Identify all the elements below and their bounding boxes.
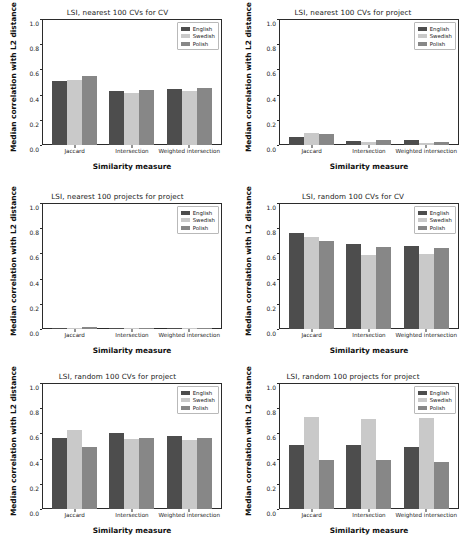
x-tick-mark (74, 329, 75, 332)
x-tick-label: Weighted intersection (396, 148, 457, 154)
bar-english (109, 328, 124, 329)
plot-area: 1.00.80.60.40.20.0JaccardIntersectionWei… (279, 19, 459, 145)
bar-polish (434, 248, 449, 329)
y-tick-label: 0.6 (29, 254, 42, 261)
legend-item: English (418, 390, 452, 396)
bar-group (109, 383, 154, 509)
chart-title: LSI, random 100 CVs for CV (235, 192, 471, 201)
bar-english (289, 137, 304, 145)
bar-swedish (67, 430, 82, 509)
figure-grid: LSI, nearest 100 CVs for CVMedian correl… (0, 0, 471, 546)
y-tick-label: 0.8 (29, 229, 42, 236)
legend-swatch-english (181, 211, 190, 215)
legend-label: Polish (430, 41, 446, 47)
x-tick-mark (369, 145, 370, 148)
legend-swatch-swedish (181, 34, 190, 38)
bar-english (167, 436, 182, 509)
bar-swedish (361, 419, 376, 509)
bar-english (167, 328, 182, 329)
bar-polish (376, 460, 391, 509)
legend-item: Swedish (181, 33, 215, 39)
x-tick-label: Intersection (115, 148, 148, 154)
x-tick-label: Jaccard (64, 148, 84, 154)
legend-swatch-english (181, 391, 190, 395)
legend-swatch-polish (418, 226, 427, 230)
x-tick-mark (132, 509, 133, 512)
bar-swedish (124, 93, 139, 145)
legend-swatch-polish (418, 406, 427, 410)
y-axis-label: Median correlation with L2 distance (9, 2, 18, 152)
x-tick-mark (311, 509, 312, 512)
legend-label: English (430, 210, 449, 216)
chart-panel: LSI, nearest 100 CVs for CVMedian correl… (0, 0, 235, 184)
legend-label: Swedish (193, 397, 215, 403)
x-tick-label: Jaccard (301, 332, 321, 338)
bar-polish (139, 328, 154, 329)
bar-swedish (304, 417, 319, 509)
x-tick-mark (74, 509, 75, 512)
legend-swatch-polish (418, 42, 427, 46)
bar-swedish (304, 133, 319, 145)
legend-label: Swedish (430, 217, 452, 223)
bar-english (109, 91, 124, 145)
x-tick-mark (74, 145, 75, 148)
bar-group (289, 383, 334, 509)
bar-polish (197, 438, 212, 509)
legend-label: English (193, 26, 212, 32)
y-tick-label: 0.6 (266, 254, 279, 261)
legend-item: English (181, 390, 215, 396)
bar-polish (434, 462, 449, 509)
legend: EnglishSwedishPolish (414, 206, 456, 234)
legend-label: Polish (193, 405, 209, 411)
x-tick-mark (426, 145, 427, 148)
plot-area: 1.00.80.60.40.20.0JaccardIntersectionWei… (42, 203, 222, 329)
bar-english (52, 438, 67, 509)
bar-english (404, 246, 419, 329)
y-tick-label: 0.0 (266, 146, 279, 153)
legend-item: Swedish (181, 217, 215, 223)
y-tick-label: 1.0 (266, 384, 279, 391)
x-axis-label: Similarity measure (279, 526, 459, 535)
legend-label: Swedish (430, 397, 452, 403)
legend-item: English (181, 26, 215, 32)
y-tick-label: 0.2 (29, 484, 42, 491)
bar-english (346, 141, 361, 145)
legend-item: Polish (418, 225, 452, 231)
x-tick-mark (426, 329, 427, 332)
y-tick-mark (40, 145, 43, 146)
y-tick-label: 0.6 (266, 70, 279, 77)
legend-label: English (193, 210, 212, 216)
x-tick-label: Intersection (352, 512, 385, 518)
y-tick-label: 0.8 (29, 45, 42, 52)
y-tick-label: 0.0 (266, 330, 279, 337)
x-tick-label: Weighted intersection (159, 512, 220, 518)
legend-label: English (193, 390, 212, 396)
x-tick-label: Weighted intersection (396, 332, 457, 338)
y-tick-mark (277, 509, 280, 510)
y-axis-label: Median correlation with L2 distance (244, 2, 253, 152)
y-tick-label: 1.0 (29, 20, 42, 27)
bar-group (109, 19, 154, 145)
bar-polish (319, 460, 334, 509)
legend-label: Polish (193, 41, 209, 47)
bar-group (346, 383, 391, 509)
legend-label: Polish (193, 225, 209, 231)
x-tick-mark (311, 329, 312, 332)
y-tick-label: 0.4 (29, 459, 42, 466)
x-tick-mark (132, 329, 133, 332)
x-tick-label: Weighted intersection (159, 332, 220, 338)
bar-english (52, 328, 67, 329)
y-tick-label: 0.8 (266, 409, 279, 416)
y-axis-label: Median correlation with L2 distance (244, 366, 253, 516)
y-tick-label: 1.0 (29, 384, 42, 391)
legend-item: Polish (181, 41, 215, 47)
chart-title: LSI, random 100 CVs for project (0, 372, 235, 381)
bar-group (289, 203, 334, 329)
bar-group (346, 19, 391, 145)
y-tick-mark (40, 509, 43, 510)
legend-swatch-polish (181, 406, 190, 410)
bar-english (109, 433, 124, 509)
legend-item: English (181, 210, 215, 216)
legend-item: Swedish (418, 33, 452, 39)
y-tick-label: 0.8 (266, 229, 279, 236)
